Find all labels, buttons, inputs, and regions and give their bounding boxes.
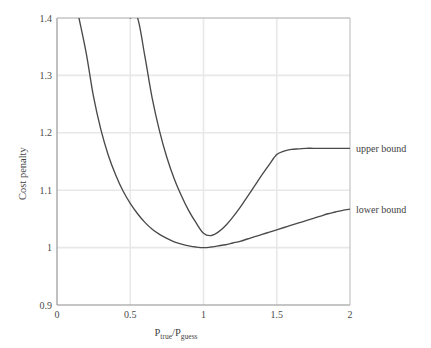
x-axis-title-mid: /P: [172, 327, 181, 338]
y-axis-title: Cost penalty: [17, 146, 28, 200]
y-tick-label: 1.2: [40, 127, 53, 138]
x-tick-label: 1: [201, 309, 206, 320]
x-axis-title: Ptrue/Pguess: [155, 327, 198, 341]
x-tick-labels: 00.511.52: [55, 309, 353, 320]
x-tick-label: 0: [55, 309, 60, 320]
series-annotations: upper boundlower bound: [356, 143, 406, 215]
y-tick-label: 0.9: [40, 300, 53, 311]
y-tick-labels: 0.911.11.21.31.4: [40, 13, 53, 311]
x-tick-label: 0.5: [124, 309, 137, 320]
y-tick-label: 1: [47, 242, 52, 253]
chart-svg: 00.511.52 0.911.11.21.31.4 upper boundlo…: [0, 0, 431, 348]
x-tick-label: 2: [348, 309, 353, 320]
series-annotation-upper-bound: upper bound: [356, 143, 406, 154]
x-axis-title-sub-guess: guess: [181, 332, 198, 341]
y-tick-label: 1.3: [40, 70, 53, 81]
x-tick-label: 1.5: [271, 309, 284, 320]
series-annotation-lower-bound: lower bound: [356, 204, 406, 215]
chart-figure: 00.511.52 0.911.11.21.31.4 upper boundlo…: [0, 0, 431, 348]
y-tick-label: 1.1: [40, 185, 53, 196]
x-axis-title-sub-true: true: [160, 332, 172, 341]
y-tick-label: 1.4: [40, 13, 53, 24]
